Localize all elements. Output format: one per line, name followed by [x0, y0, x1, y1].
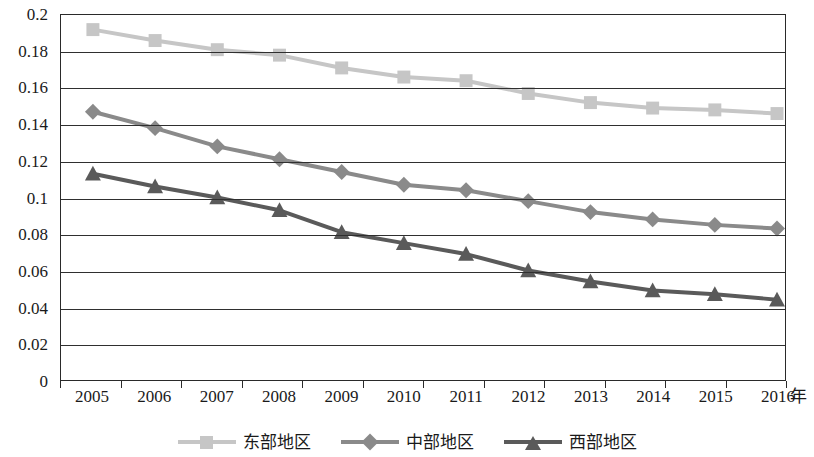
x-axis-tick-label: 2007	[200, 388, 234, 405]
data-point-marker	[582, 204, 598, 220]
x-axis-tick	[363, 381, 364, 388]
x-axis-unit-label: 年	[790, 388, 807, 405]
data-point-marker	[211, 43, 224, 56]
y-axis-tick-labels: 0.20.180.160.140.120.10.080.060.040.020	[0, 0, 54, 396]
x-axis-tick-label: 2010	[387, 388, 421, 405]
x-axis-tick-label: 2008	[262, 388, 296, 405]
data-point-marker	[769, 221, 785, 237]
x-axis-tick-label: 2005	[75, 388, 109, 405]
y-axis-tick-label: 0.08	[18, 226, 48, 243]
y-axis-tick-label: 0.14	[18, 116, 48, 133]
data-point-marker	[396, 177, 412, 193]
legend-item[interactable]: 中部地区	[341, 433, 474, 451]
x-axis-tick-label: 2006	[137, 388, 171, 405]
y-axis-tick-label: 0.02	[18, 336, 48, 353]
x-axis-tick	[302, 381, 303, 388]
data-point-marker	[645, 211, 661, 227]
data-point-marker	[86, 23, 99, 36]
y-axis-tick-label: 0.06	[18, 262, 48, 279]
x-axis-tick	[181, 381, 182, 388]
chart-legend: 东部地区中部地区西部地区	[0, 427, 814, 457]
data-point-marker	[147, 120, 163, 136]
data-point-marker	[707, 217, 723, 233]
y-axis-tick-label: 0.04	[18, 299, 48, 316]
x-axis-tick	[423, 381, 424, 388]
gridline	[61, 125, 785, 126]
gridline	[61, 52, 785, 53]
x-axis-tick	[242, 381, 243, 388]
x-axis-tick-label: 2013	[574, 388, 608, 405]
legend-label: 东部地区	[243, 434, 311, 451]
data-point-marker	[85, 104, 101, 120]
legend-item[interactable]: 东部地区	[178, 433, 311, 451]
series-canvas	[61, 15, 785, 380]
plot-area	[60, 14, 786, 381]
data-point-marker	[520, 193, 536, 209]
data-point-marker	[272, 151, 288, 167]
series-line	[93, 112, 777, 229]
line-chart: 0.20.180.160.140.120.10.080.060.040.020 …	[0, 0, 814, 457]
data-point-marker	[209, 138, 225, 154]
legend-key-diamond-icon	[341, 433, 399, 451]
x-axis-tick-label: 2014	[636, 388, 670, 405]
data-point-marker	[646, 102, 659, 115]
data-point-marker	[397, 71, 410, 84]
legend-key-square-icon	[178, 433, 236, 451]
data-point-marker	[273, 49, 286, 62]
gridline	[61, 235, 785, 236]
legend-item[interactable]: 西部地区	[504, 433, 637, 451]
legend-label: 西部地区	[569, 434, 637, 451]
x-axis-tick	[121, 381, 122, 388]
data-point-marker	[149, 34, 162, 47]
gridline	[61, 309, 785, 310]
x-axis-tick-label: 2009	[324, 388, 358, 405]
gridline	[61, 88, 785, 89]
y-axis-tick-label: 0.16	[18, 79, 48, 96]
x-axis-tick	[484, 381, 485, 388]
legend-marker	[525, 436, 541, 450]
x-axis-tick-label: 2012	[512, 388, 546, 405]
legend-marker	[200, 436, 213, 449]
legend-marker	[361, 434, 378, 451]
x-axis-tick-label: 2015	[699, 388, 733, 405]
gridline	[61, 272, 785, 273]
y-axis-tick-label: 0	[40, 373, 49, 390]
y-axis-tick-label: 0.12	[18, 152, 48, 169]
data-point-marker	[708, 103, 721, 116]
data-point-marker	[458, 182, 474, 198]
x-axis-tick-label: 2011	[449, 388, 482, 405]
gridline	[61, 162, 785, 163]
gridline	[61, 345, 785, 346]
series-line	[93, 174, 777, 300]
y-axis-tick-label: 0.18	[18, 42, 48, 59]
y-axis-tick-label: 0.2	[27, 6, 48, 23]
data-point-marker	[771, 107, 784, 120]
data-point-marker	[334, 164, 350, 180]
y-axis-tick-label: 0.1	[27, 189, 48, 206]
gridline	[61, 199, 785, 200]
data-point-marker	[335, 61, 348, 74]
series-line	[93, 30, 777, 114]
data-point-marker	[460, 74, 473, 87]
data-point-marker	[584, 96, 597, 109]
x-axis-tick	[60, 381, 61, 388]
legend-key-triangle-icon	[504, 433, 562, 451]
legend-label: 中部地区	[406, 434, 474, 451]
